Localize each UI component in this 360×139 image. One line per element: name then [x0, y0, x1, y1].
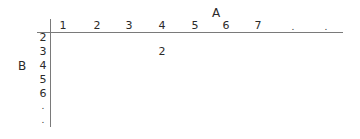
row-header: 5 — [40, 74, 47, 86]
column-header: 7 — [255, 20, 262, 32]
column-header: 1 — [60, 20, 67, 32]
column-header: 5 — [192, 20, 199, 32]
row-axis-title: B — [18, 60, 26, 73]
column-header: 2 — [94, 20, 101, 32]
row-header: 3 — [40, 46, 47, 58]
table-cell-value: 2 — [159, 46, 166, 58]
column-header: 3 — [126, 20, 133, 32]
column-header: 6 — [223, 20, 230, 32]
row-header: 2 — [40, 32, 47, 44]
row-header: 6 — [40, 88, 47, 100]
row-header-ellipsis: . — [42, 100, 45, 112]
row-header-ellipsis: . — [42, 114, 45, 126]
column-header-ellipsis: . — [292, 21, 295, 33]
column-axis-title: A — [212, 7, 220, 20]
column-header: 4 — [159, 20, 166, 32]
row-header: 4 — [40, 60, 47, 72]
header-divider-line — [37, 32, 343, 33]
row-header-divider-line — [50, 19, 51, 127]
column-header-ellipsis: . — [325, 21, 328, 33]
